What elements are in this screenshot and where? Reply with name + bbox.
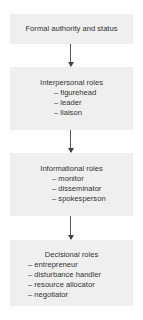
arrow-1 <box>70 44 71 66</box>
box-title: Interpersonal roles <box>10 67 133 88</box>
list-item: – resource allocator <box>28 280 133 290</box>
box-title: Informational roles <box>10 153 133 174</box>
list-item: – disseminator <box>52 184 133 194</box>
box-formal-authority: Formal authority and status <box>10 14 133 44</box>
list-item: – spokesperson <box>52 194 133 204</box>
box-decisional-roles: Decisional roles – entrepreneur – distur… <box>10 240 133 306</box>
role-list: – figurehead – leader – liaison <box>10 88 133 118</box>
list-item: – disturbance handler <box>28 270 133 280</box>
role-list: – entrepreneur – disturbance handler – r… <box>10 260 133 300</box>
arrow-3 <box>70 216 71 239</box>
list-item: – figurehead <box>54 88 133 98</box>
box-title: Formal authority and status <box>10 14 133 34</box>
role-list: – monitor – disseminator – spokesperson <box>10 174 133 204</box>
list-item: – monitor <box>52 174 133 184</box>
list-item: – leader <box>54 98 133 108</box>
box-title: Decisional roles <box>10 240 133 260</box>
box-interpersonal-roles: Interpersonal roles – figurehead – leade… <box>10 67 133 130</box>
box-informational-roles: Informational roles – monitor – dissemin… <box>10 153 133 216</box>
list-item: – liaison <box>54 108 133 118</box>
list-item: – entrepreneur <box>28 260 133 270</box>
arrow-2 <box>70 130 71 152</box>
list-item: – negotiator <box>28 290 133 300</box>
